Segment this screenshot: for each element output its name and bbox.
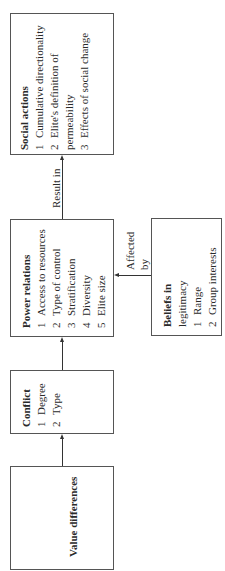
item-number: 3 — [64, 316, 79, 328]
item-number: 2 — [49, 316, 64, 328]
power-relations-title: Power relations — [19, 229, 34, 328]
conflict-item-2: 2Type — [49, 383, 64, 427]
item-text: Elite size — [95, 275, 107, 316]
beliefs-item-2: 2Group interests — [205, 247, 220, 327]
item-text: Diversity — [80, 275, 92, 316]
item-text: Group interests — [206, 247, 218, 315]
arrowhead-left-icon — [114, 273, 119, 277]
item-text: Degree — [35, 383, 47, 415]
box-social-actions: Social actions 1Cumulative directionalit… — [10, 13, 114, 155]
item-text: Type — [50, 393, 62, 415]
edge-conflict-power-line — [62, 340, 63, 370]
edge-affected-by-line — [117, 275, 151, 276]
box-value-differences: Value differences — [10, 466, 114, 570]
box-beliefs-in-legitimacy: Beliefs in legitimacy 1Range 2Group inte… — [151, 218, 222, 336]
conflict-title: Conflict — [19, 383, 34, 427]
social-actions-title: Social actions — [17, 25, 32, 150]
power-relations-item-4: 4Diversity — [79, 229, 94, 328]
edge-label-affected-by: Affected by — [123, 232, 151, 270]
item-text: Range — [191, 287, 203, 315]
power-relations-item-1: 1Access to resources — [34, 229, 49, 328]
item-number: 3 — [77, 138, 92, 150]
item-text: Access to resources — [35, 229, 47, 316]
beliefs-title-line-2: legitimacy — [175, 247, 190, 327]
beliefs-item-1: 1Range — [190, 247, 205, 327]
item-text: Cumulative directionality — [33, 25, 45, 138]
item-number: 1 — [34, 415, 49, 427]
edge-label-result-in: Result in — [49, 169, 63, 208]
item-number: 4 — [79, 316, 94, 328]
item-number: 2 — [205, 315, 220, 327]
power-relations-item-3: 3Stratification — [64, 229, 79, 328]
social-actions-item-2-continued: permeability — [62, 25, 77, 150]
item-number: 2 — [49, 415, 64, 427]
item-number: 5 — [94, 316, 109, 328]
item-number: 1 — [32, 138, 47, 150]
item-text: Type of control — [50, 248, 62, 316]
item-number: 2 — [47, 138, 62, 150]
edge-label-affected: Affected — [123, 232, 137, 270]
item-number: 1 — [190, 315, 205, 327]
social-actions-item-2: 2Elite's definition of — [47, 25, 62, 150]
arrowhead-up-icon — [60, 434, 64, 439]
box-conflict: Conflict 1Degree 2Type — [10, 370, 114, 434]
arrowhead-up-icon — [60, 337, 64, 342]
power-relations-item-5: 5Elite size — [94, 229, 109, 328]
box-power-relations: Power relations 1Access to resources 2Ty… — [10, 219, 114, 337]
edge-value-conflict-line — [62, 437, 63, 466]
power-relations-item-2: 2Type of control — [49, 229, 64, 328]
social-actions-item-1: 1Cumulative directionality — [32, 25, 47, 150]
social-actions-item-3: 3Effects of social change — [77, 25, 92, 150]
conflict-item-1: 1Degree — [34, 383, 49, 427]
item-text: Effects of social change — [78, 33, 90, 138]
item-number: 1 — [34, 316, 49, 328]
edge-label-by: by — [137, 232, 151, 270]
item-text: Stratification — [65, 259, 77, 316]
arrowhead-up-icon — [60, 155, 64, 160]
item-text: Elite's definition of — [48, 54, 60, 138]
value-differences-title: Value differences — [66, 477, 81, 557]
beliefs-title-line-1: Beliefs in — [160, 247, 175, 327]
